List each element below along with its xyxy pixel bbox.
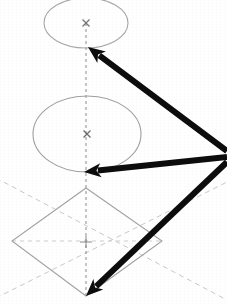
projection-diagram-svg — [0, 0, 227, 304]
canvas-background — [0, 0, 227, 304]
figure-container: Isometric projection construction diagra… — [0, 0, 227, 304]
